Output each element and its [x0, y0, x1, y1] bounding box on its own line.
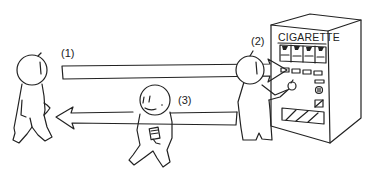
illustration: (1) (3) CIGARETTE	[0, 0, 373, 183]
label-step-2: (2)	[251, 35, 264, 47]
label-step-3: (3)	[178, 94, 191, 106]
label-step-1: (1)	[61, 47, 74, 59]
vending-machine: CIGARETTE	[271, 14, 361, 143]
machine-sign: CIGARETTE	[278, 31, 340, 43]
person-walking-to-machine	[13, 53, 52, 143]
person-walking-back	[129, 85, 172, 167]
cigarette-pack-icon	[149, 127, 160, 144]
